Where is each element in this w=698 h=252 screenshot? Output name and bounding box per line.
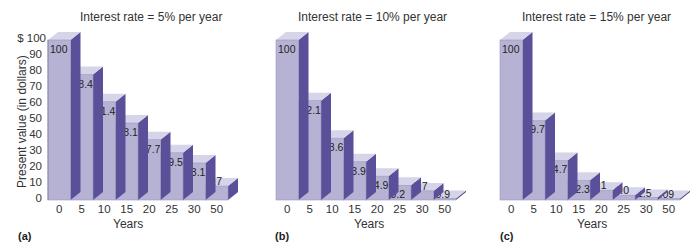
x-tick: 0 — [499, 203, 523, 215]
bar-value-label: 100 — [502, 43, 520, 55]
x-tick: 5 — [522, 203, 546, 215]
x-tick: 15 — [567, 203, 591, 215]
panel-label: (c) — [500, 230, 513, 242]
panel-c: Interest rate = 15% per year .091.53.06.… — [0, 0, 698, 252]
x-tick: 50 — [657, 203, 681, 215]
x-tick: 20 — [589, 203, 613, 215]
x-tick: 30 — [634, 203, 658, 215]
bar: 100 — [500, 32, 533, 200]
x-tick: 10 — [544, 203, 568, 215]
x-axis-label: Years — [577, 217, 607, 231]
x-tick: 25 — [612, 203, 636, 215]
